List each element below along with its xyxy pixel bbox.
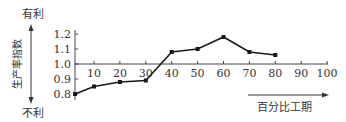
arrow-down-icon	[29, 97, 34, 104]
data-point-markers	[73, 35, 277, 96]
data-point	[273, 53, 277, 57]
data-point	[222, 35, 226, 39]
x-tick-label: 40	[165, 67, 179, 80]
data-point	[247, 50, 251, 54]
arrow-up-icon	[29, 24, 34, 31]
favorable-unfavorable-arrow	[29, 24, 34, 104]
unfavorable-label: 不利	[22, 107, 44, 120]
x-tick-label: 50	[191, 67, 205, 80]
x-tick-label: 60	[217, 67, 231, 80]
percent-duration-arrow	[248, 93, 329, 98]
x-tick-label: 70	[242, 67, 256, 80]
x-axis-title: 百分比工期	[257, 101, 312, 114]
x-tick-label: 90	[294, 67, 308, 80]
productivity-line-chart: 有利 不利 生产率指数 0.80.91.01.11.2 102030405060…	[0, 0, 346, 122]
y-tick-label: 0.9	[54, 73, 72, 86]
y-axis-title: 生产率指数	[11, 39, 23, 89]
y-tick-label: 0.8	[54, 88, 72, 101]
x-tick-label: 10	[87, 67, 101, 80]
favorable-label: 有利	[22, 7, 44, 21]
data-point	[170, 50, 174, 54]
x-tick-label: 100	[317, 67, 338, 80]
y-tick-label: 1.2	[54, 28, 72, 41]
x-tick-label: 80	[268, 67, 282, 80]
data-point	[92, 85, 96, 89]
data-point	[73, 92, 77, 96]
y-axis-ticks: 0.80.91.01.11.2	[54, 28, 79, 101]
data-point	[144, 79, 148, 83]
productivity-series-line	[75, 37, 275, 94]
data-point	[196, 47, 200, 51]
x-tick-label: 30	[139, 67, 153, 80]
y-tick-label: 1.1	[54, 43, 72, 56]
data-point	[118, 80, 122, 84]
arrow-right-icon	[322, 93, 329, 98]
x-tick-label: 20	[113, 67, 127, 80]
y-tick-label: 1.0	[54, 58, 72, 71]
